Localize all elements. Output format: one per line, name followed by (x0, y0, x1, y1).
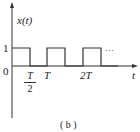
continuation-ellipsis: ··· (105, 46, 114, 55)
signal-waveform (12, 48, 118, 66)
x-axis-label: t (132, 70, 135, 81)
y-tick-0: 0 (3, 66, 9, 77)
x-tick-period: T (44, 70, 50, 81)
figure-caption: ( b ) (60, 120, 77, 130)
x-tick-half-period-denominator: 2 (24, 83, 36, 94)
y-tick-1: 1 (3, 43, 9, 54)
t-axis-arrow-icon (132, 64, 138, 68)
x-tick-half-period-numerator: T (24, 71, 36, 83)
x-tick-two-period: 2T (80, 70, 92, 81)
y-axis-arrow-icon (10, 2, 14, 8)
x-tick-half-period: T 2 (24, 71, 36, 94)
y-axis-label: x(t) (17, 15, 32, 26)
